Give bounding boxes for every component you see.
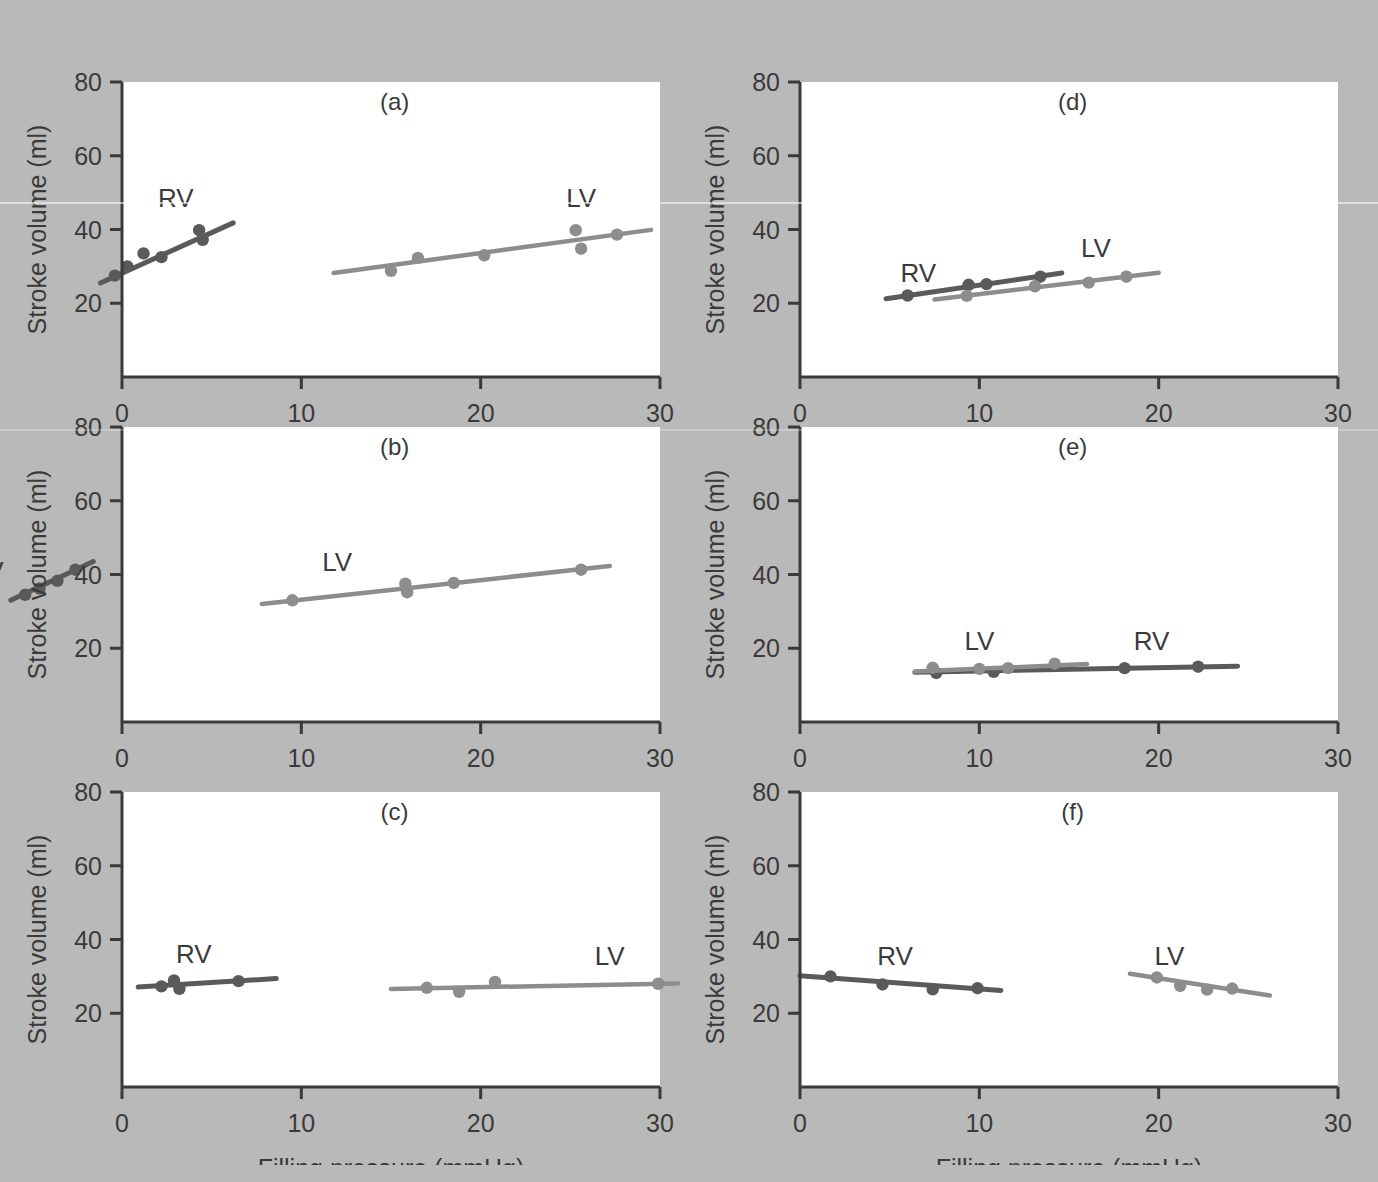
y-tick-label: 80 (752, 68, 780, 96)
data-point (961, 290, 973, 302)
x-tick-label: 0 (115, 1109, 129, 1137)
data-point (1048, 658, 1060, 670)
panel-letter: (d) (1058, 88, 1087, 115)
y-tick-label: 60 (752, 487, 780, 515)
panel-letter: (b) (380, 433, 409, 460)
data-point (478, 249, 490, 261)
series-label-lv: LV (964, 626, 995, 656)
x-tick-label: 20 (1145, 1109, 1173, 1137)
y-tick-label: 40 (752, 926, 780, 954)
data-point (611, 228, 623, 240)
y-axis-title: Stroke volume (ml) (23, 125, 51, 335)
chart-panel-a: RVLV204060800102030(a)Stroke volume (ml) (0, 55, 700, 425)
series-label-rv: RV (901, 258, 937, 288)
series-label-rv: RV (158, 183, 194, 213)
series-label-rv: RV (0, 556, 4, 586)
y-tick-label: 20 (752, 999, 780, 1027)
panel-letter: (e) (1058, 433, 1087, 460)
y-tick-label: 20 (74, 289, 102, 317)
data-point (876, 978, 888, 990)
data-point (1201, 983, 1213, 995)
x-tick-label: 20 (467, 1109, 495, 1137)
data-point (51, 575, 63, 587)
data-point (453, 986, 465, 998)
data-point (570, 224, 582, 236)
x-axis-title: Filling pressure (mmHg) (936, 1154, 1203, 1165)
data-point (1120, 271, 1132, 283)
data-point (652, 978, 664, 990)
data-point (232, 975, 244, 987)
y-tick-label: 80 (74, 778, 102, 806)
data-point (155, 980, 167, 992)
chart-panel-b: RVLV204060800102030(b)Stroke volume (ml) (0, 400, 700, 770)
y-axis-title: Stroke volume (ml) (701, 835, 729, 1045)
plot-area-background (800, 792, 1338, 1087)
data-point (448, 577, 460, 589)
x-tick-label: 30 (646, 1109, 674, 1137)
data-point (1083, 276, 1095, 288)
x-axis-title: Filling pressure (mmHg) (258, 1154, 525, 1165)
y-tick-label: 60 (752, 852, 780, 880)
data-point (927, 983, 939, 995)
y-tick-label: 40 (74, 216, 102, 244)
y-tick-label: 60 (752, 142, 780, 170)
y-tick-label: 60 (74, 487, 102, 515)
data-point (1118, 662, 1130, 674)
data-point (1226, 982, 1238, 994)
data-point (385, 265, 397, 277)
series-label-lv: LV (1154, 941, 1185, 971)
y-tick-label: 80 (74, 68, 102, 96)
y-axis-title: Stroke volume (ml) (701, 470, 729, 680)
data-point (109, 269, 121, 281)
chart-panel-e: RVLV204060800102030(e)Stroke volume (ml) (678, 400, 1378, 770)
data-point (1174, 980, 1186, 992)
data-point (980, 278, 992, 290)
y-tick-label: 40 (74, 561, 102, 589)
panel-letter: (a) (380, 88, 409, 115)
y-axis-title: Stroke volume (ml) (701, 125, 729, 335)
x-tick-label: 30 (1324, 1109, 1352, 1137)
data-point (401, 586, 413, 598)
data-point (412, 252, 424, 264)
y-axis-title: Stroke volume (ml) (23, 835, 51, 1045)
panel-letter: (c) (381, 798, 409, 825)
data-point (575, 564, 587, 576)
data-point (173, 983, 185, 995)
chart-panel-d: RVLV204060800102030(d)Stroke volume (ml) (678, 55, 1378, 425)
y-tick-label: 80 (74, 413, 102, 441)
data-point (824, 970, 836, 982)
data-point (137, 247, 149, 259)
data-point (973, 663, 985, 675)
data-point (971, 982, 983, 994)
series-label-rv: RV (176, 939, 212, 969)
data-point (155, 251, 167, 263)
x-tick-label: 10 (965, 1109, 993, 1137)
x-tick-label: 10 (287, 1109, 315, 1137)
data-point (1151, 971, 1163, 983)
data-point (1192, 660, 1204, 672)
panel-letter: (f) (1061, 798, 1084, 825)
y-tick-label: 60 (74, 852, 102, 880)
series-label-lv: LV (322, 547, 353, 577)
data-point (286, 594, 298, 606)
series-label-lv: LV (566, 183, 597, 213)
data-point (901, 289, 913, 301)
chart-panel-f: RVLV204060800102030(f)Stroke volume (ml)… (678, 765, 1378, 1165)
y-axis-title: Stroke volume (ml) (23, 470, 51, 680)
figure-panels-a-to-f: RVLV204060800102030(a)Stroke volume (ml)… (0, 0, 1378, 1182)
series-label-rv: RV (1134, 626, 1170, 656)
y-tick-label: 40 (74, 926, 102, 954)
data-point (1002, 662, 1014, 674)
y-tick-label: 80 (752, 778, 780, 806)
y-tick-label: 20 (752, 634, 780, 662)
y-tick-label: 40 (752, 216, 780, 244)
y-tick-label: 20 (752, 289, 780, 317)
y-tick-label: 20 (74, 999, 102, 1027)
chart-panel-c: RVLV204060800102030(c)Stroke volume (ml)… (0, 765, 700, 1165)
series-label-rv: RV (877, 941, 913, 971)
x-tick-label: 0 (793, 1109, 807, 1137)
data-point (927, 662, 939, 674)
data-point (1029, 280, 1041, 292)
plot-area-background (800, 427, 1338, 722)
data-point (962, 279, 974, 291)
